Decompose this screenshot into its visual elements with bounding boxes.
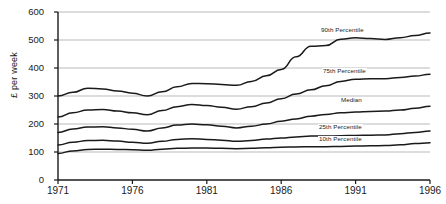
x-axis-tick-label: 1991: [336, 186, 376, 196]
series-line-75th-percentile: [58, 74, 430, 117]
x-axis-tick-label: 1986: [261, 186, 301, 196]
series-line-25th-percentile: [58, 131, 430, 145]
series-label-75th-percentile: 75th Percentile: [322, 68, 367, 74]
x-axis-tick-label: 1981: [187, 186, 227, 196]
series-line-90th-percentile: [58, 33, 430, 96]
series-label-median: Median: [340, 97, 363, 103]
series-label-10th-percentile: 10th Percentile: [318, 136, 363, 142]
series-label-25th-percentile: 25th Percentile: [318, 124, 363, 130]
x-axis-tick-label: 1976: [112, 186, 152, 196]
x-axis-tick-label: 1971: [38, 186, 78, 196]
x-axis-tick-label: 1996: [410, 186, 446, 196]
series-label-90th-percentile: 90th Percentile: [320, 27, 365, 33]
